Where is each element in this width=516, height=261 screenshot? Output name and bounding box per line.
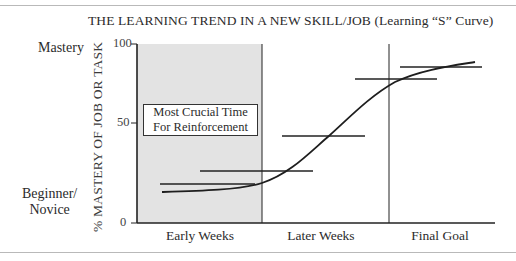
callout-line1: Most Crucial Time: [144, 105, 257, 120]
chart-canvas: [0, 0, 516, 261]
x-label-final-goal: Final Goal: [411, 228, 468, 244]
x-label-later-weeks: Later Weeks: [287, 228, 354, 244]
callout-line2: For Reinforcement: [144, 120, 257, 135]
reinforcement-callout: Most Crucial Time For Reinforcement: [143, 104, 258, 136]
x-label-early-weeks: Early Weeks: [166, 228, 234, 244]
